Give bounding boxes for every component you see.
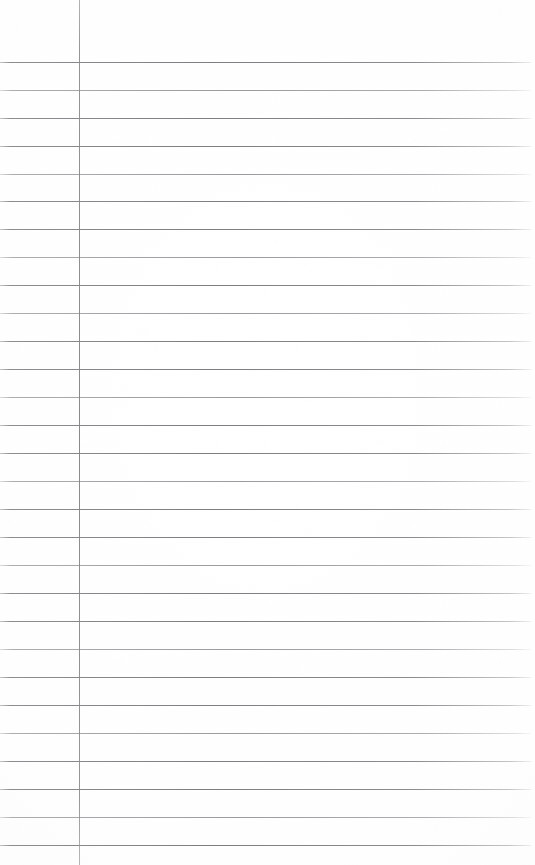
writing-area[interactable] — [80, 0, 535, 865]
notebook-page — [0, 0, 535, 865]
